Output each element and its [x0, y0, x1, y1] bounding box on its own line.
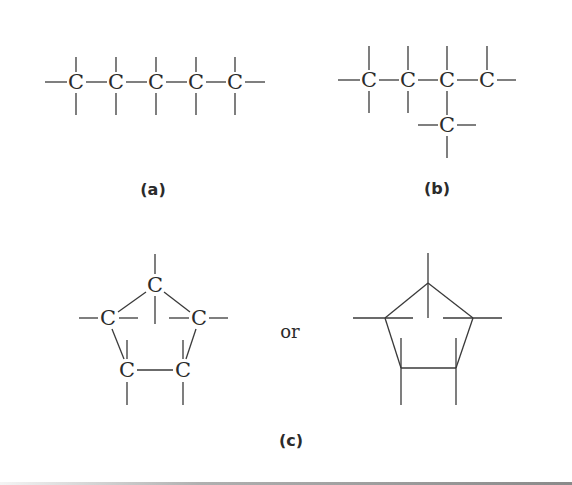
- panel-b-branched-chain: C C C C C (b): [338, 46, 516, 198]
- carbon-atom: C: [227, 70, 243, 94]
- panel-a-straight-chain: C C C C C (a): [45, 57, 265, 199]
- carbon-atom: C: [100, 306, 116, 330]
- or-conjunction: or: [280, 321, 300, 342]
- carbon-atom-branch: C: [439, 113, 455, 137]
- carbon-atom: C: [479, 68, 495, 92]
- carbon-skeleton-figure: C C C C C (a) C C C C C (b): [0, 0, 572, 485]
- carbon-atom: C: [108, 70, 124, 94]
- carbon-atom: C: [400, 68, 416, 92]
- panel-c-label: (c): [279, 431, 303, 450]
- panel-b-label: (b): [424, 179, 450, 198]
- carbon-atom: C: [175, 358, 191, 382]
- carbon-atom: C: [439, 68, 455, 92]
- panel-c-ring-with-symbols: C C C C C: [79, 254, 228, 405]
- carbon-atom: C: [148, 70, 164, 94]
- carbon-atom: C: [147, 273, 163, 297]
- carbon-atom: C: [68, 70, 84, 94]
- carbon-atom: C: [191, 306, 207, 330]
- panel-a-label: (a): [140, 180, 165, 199]
- carbon-atom: C: [188, 70, 204, 94]
- carbon-atom: C: [361, 68, 377, 92]
- panel-c-ring-skeletal: [353, 253, 502, 405]
- carbon-atom: C: [119, 358, 135, 382]
